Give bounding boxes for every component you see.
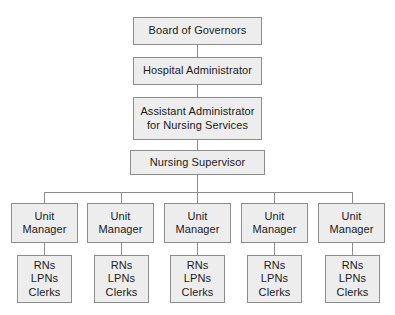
connector-unit-4-to-staff-4 [274, 243, 275, 255]
node-label: RNs LPNs Clerks [326, 259, 379, 300]
node-assistant-administrator[interactable]: Assistant Administrator for Nursing Serv… [133, 97, 262, 140]
connector-unit-5-to-staff-5 [352, 243, 353, 255]
node-label: RNs LPNs Clerks [95, 259, 148, 300]
connector-bus-unit-managers [44, 192, 352, 193]
node-label: RNs LPNs Clerks [171, 259, 224, 300]
node-label: Assistant Administrator for Nursing Serv… [134, 105, 261, 132]
connector-unit-3-to-staff-3 [197, 243, 198, 255]
connector-bus-drop-1 [44, 192, 45, 203]
node-unit-manager-5[interactable]: Unit Manager [318, 203, 385, 243]
connector-bus-drop-4 [274, 192, 275, 203]
node-unit-manager-2[interactable]: Unit Manager [87, 203, 154, 243]
connector-bus-drop-3 [197, 192, 198, 203]
connector-hospital-to-assistant [197, 85, 198, 97]
node-unit-manager-1[interactable]: Unit Manager [11, 203, 78, 243]
node-nursing-supervisor[interactable]: Nursing Supervisor [130, 150, 265, 175]
node-staff-5[interactable]: RNs LPNs Clerks [325, 255, 380, 303]
node-label: Unit Manager [88, 210, 153, 237]
node-label: RNs LPNs Clerks [248, 259, 301, 300]
node-label: Nursing Supervisor [131, 156, 264, 170]
node-label: Unit Manager [165, 210, 230, 237]
node-unit-manager-4[interactable]: Unit Manager [241, 203, 308, 243]
node-unit-manager-3[interactable]: Unit Manager [164, 203, 231, 243]
node-hospital-administrator[interactable]: Hospital Administrator [133, 57, 262, 85]
node-staff-3[interactable]: RNs LPNs Clerks [170, 255, 225, 303]
connector-bus-drop-5 [352, 192, 353, 203]
node-staff-2[interactable]: RNs LPNs Clerks [94, 255, 149, 303]
node-label: RNs LPNs Clerks [18, 259, 71, 300]
connector-board-to-hospital [197, 45, 198, 57]
connector-unit-2-to-staff-2 [121, 243, 122, 255]
connector-assistant-to-supervisor [197, 140, 198, 150]
node-label: Hospital Administrator [134, 64, 261, 78]
node-label: Unit Manager [12, 210, 77, 237]
connector-bus-drop-2 [121, 192, 122, 203]
node-label: Unit Manager [242, 210, 307, 237]
org-chart: Board of Governors Hospital Administrato… [0, 0, 395, 315]
connector-unit-1-to-staff-1 [44, 243, 45, 255]
node-label: Unit Manager [319, 210, 384, 237]
node-staff-1[interactable]: RNs LPNs Clerks [17, 255, 72, 303]
node-board-of-governors[interactable]: Board of Governors [133, 17, 262, 45]
node-staff-4[interactable]: RNs LPNs Clerks [247, 255, 302, 303]
node-label: Board of Governors [134, 24, 261, 38]
connector-supervisor-stem [197, 175, 198, 192]
